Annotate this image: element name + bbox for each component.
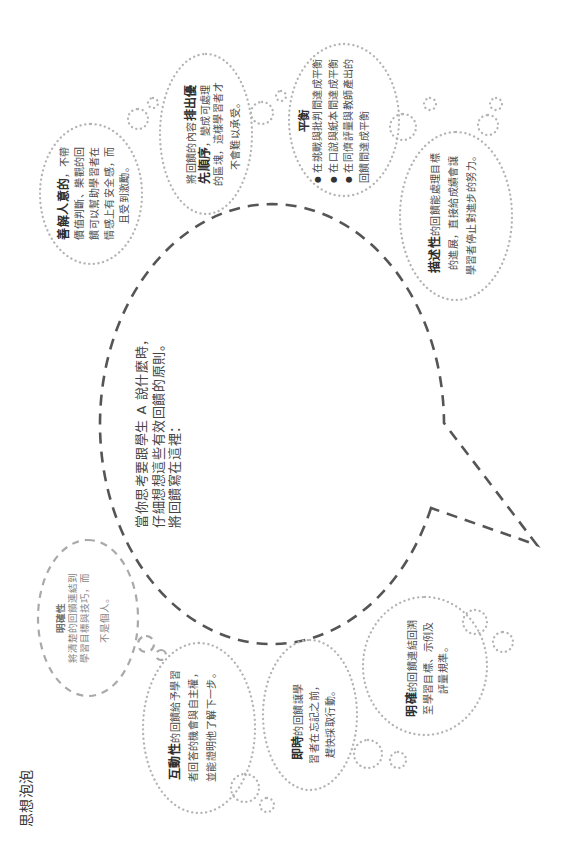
prioritized-line: 先順序，變成可處理	[199, 78, 213, 190]
interactive-bubble-text: 互動性的回饋給予學習 者回答的機會與自主權， 並能證明他了解下一步。	[166, 666, 221, 784]
interactive-line: 者回答的機會與自主權，	[185, 666, 203, 784]
empathetic-trail-circle	[128, 109, 148, 129]
prioritized-bubble-text: 將回饋的內容排出優 先順序，變成可處理 的區塊，這樣學習者才 不會難以承受。	[185, 78, 242, 190]
interactive-trail-circle	[231, 774, 259, 802]
balanced-bullet-item: ●在挑戰與批判間達成平衡	[310, 58, 326, 183]
page-title: 思想泡泡	[15, 769, 35, 827]
specific-trail-circle-small	[493, 632, 513, 652]
balanced-trail-circle	[390, 114, 416, 140]
worksheet-page: 思想泡泡 當你思考要跟學生 A 說什麼時， 仔細想想這些有效回饋的原則。 將回饋…	[0, 0, 570, 866]
bullet-text: 在挑戰與批判間達成平衡	[312, 58, 323, 172]
empathetic-line: 且受到激勵。	[117, 137, 132, 249]
bubble-outlines	[0, 0, 570, 866]
clarity-line: 學習目標與技巧，而	[79, 568, 91, 668]
line-text: 的回饋給予學習	[170, 670, 181, 743]
specific-line: 評量規準。	[436, 612, 452, 724]
empathetic-line: 饋可以幫助學習者在	[87, 137, 102, 249]
descriptive-line: 學習者停止對進步的努力。	[463, 148, 481, 278]
balanced-title: 平衡	[297, 76, 311, 166]
balanced-bullet-list: ●在挑戰與批判間達成平衡 ●在口說與紙本間達成平衡 ●在同儕評量與教師產出的 回…	[310, 58, 372, 183]
timely-trail-circle-small	[390, 752, 406, 768]
prioritized-keyword: 排出優	[184, 84, 198, 121]
timely-line: 趕快採取行動。	[323, 672, 339, 772]
prompt-line: 仔細想想這些有效回饋的原則。	[151, 332, 168, 528]
balanced-bullet-item: ●在同儕評量與教師產出的	[341, 58, 357, 183]
line-text: 的回饋連結回溯	[407, 619, 418, 692]
balanced-bullet-item: ●在口說與紙本間達成平衡	[326, 58, 342, 183]
prioritized-line: 的區塊，這樣學習者才	[212, 78, 226, 190]
interactive-line: 互動性的回饋給予學習	[166, 666, 185, 784]
timely-line: 即時的回饋讓學	[290, 672, 307, 772]
prioritized-trail-circle	[251, 102, 273, 124]
empathetic-bubble-text: 善解人意的，不帶 價值判斷、樂觀的回 饋可以幫助學習者在 情感上有安全感，而 且…	[57, 137, 132, 249]
descriptive-bubble-text: 描述性的回饋能處理目標 的進展，直接給成績會讓 學習者停止對進步的努力。	[426, 148, 481, 278]
prioritized-line: 將回饋的內容排出優	[185, 78, 199, 190]
bullet-icon: ●	[329, 176, 338, 183]
line-text: 的回饋能處理目標	[430, 153, 441, 236]
timely-keyword: 即時	[291, 736, 305, 761]
descriptive-line: 描述性的回饋能處理目標	[426, 148, 445, 278]
empathetic-line: 善解人意的，不帶	[57, 137, 72, 249]
descriptive-trail-circle-small	[490, 98, 502, 110]
balanced-trail-circle-small	[424, 98, 436, 110]
prioritized-line: 不會難以承受。	[229, 78, 243, 190]
prioritized-trail-circle-small	[276, 91, 286, 101]
timely-line: 習者在忘記之前，	[307, 672, 323, 772]
clarity-bubble-text: 明確性 將清楚的回饋連結到 學習目標與技巧，而 不是個人。	[55, 568, 111, 668]
timely-trail-circle	[354, 740, 382, 768]
bullet-icon: ●	[344, 176, 353, 183]
interactive-trail-circle-small	[260, 798, 274, 812]
clarity-trail-circle-small	[156, 650, 166, 660]
specific-trail-circle	[463, 610, 487, 634]
interactive-line: 並能證明他了解下一步。	[203, 666, 221, 784]
balanced-bullet-continuation: 回饋間達成平衡	[357, 58, 373, 183]
line-text: 將回饋的內容	[186, 121, 197, 183]
line-text: ，不帶	[59, 146, 70, 177]
empathetic-line: 價值判斷、樂觀的回	[72, 137, 87, 249]
descriptive-trail-circle	[478, 115, 498, 135]
interactive-keyword: 互動性	[168, 743, 182, 780]
clarity-trail-circle	[138, 636, 154, 652]
bullet-text: 在同儕評量與教師產出的	[343, 58, 354, 172]
descriptive-line: 的進展，直接給成績會讓	[445, 148, 463, 278]
empathetic-keyword: 善解人意的	[57, 178, 71, 240]
prioritized-keyword: 先順序	[198, 147, 212, 184]
clarity-line: 將清楚的回饋連結到	[67, 568, 79, 668]
line-text: 的回饋讓學	[293, 684, 304, 736]
prompt-line: 將回饋寫在這裡：	[167, 332, 184, 528]
bullet-text: 在口說與紙本間達成平衡	[328, 58, 339, 172]
specific-keyword: 明確	[405, 692, 419, 717]
empathetic-trail-circle-small	[148, 98, 158, 108]
line-text: ，變成可處理	[200, 84, 211, 146]
clarity-line: 不是個人。	[99, 568, 111, 668]
specific-bubble-text: 明確的回饋連結回溯 至學習目標、示例及 評量規準。	[405, 612, 452, 724]
clarity-title: 明確性	[55, 568, 67, 668]
center-prompt: 當你思考要跟學生 A 說什麼時， 仔細想想這些有效回饋的原則。 將回饋寫在這裡：	[134, 332, 184, 528]
prompt-line: 當你思考要跟學生 A 說什麼時，	[134, 332, 151, 528]
bullet-icon: ●	[313, 176, 322, 183]
empathetic-line: 情感上有安全感，而	[102, 137, 117, 249]
descriptive-keyword: 描述性	[428, 236, 442, 273]
rotated-landscape-canvas: 思想泡泡 當你思考要跟學生 A 說什麼時， 仔細想想這些有效回饋的原則。 將回饋…	[0, 0, 570, 866]
timely-bubble-text: 即時的回饋讓學 習者在忘記之前， 趕快採取行動。	[290, 672, 339, 772]
specific-line: 明確的回饋連結回溯	[405, 612, 421, 724]
specific-line: 至學習目標、示例及	[421, 612, 437, 724]
